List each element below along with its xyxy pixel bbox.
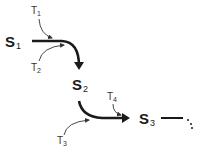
state-subscript: 1 (16, 41, 21, 51)
transition-t4: T4 (107, 92, 117, 103)
t3-input-arrow (64, 120, 89, 135)
continuation-dot (187, 119, 189, 121)
state-subscript: 2 (83, 84, 88, 94)
t2-input-arrow (39, 45, 64, 61)
continuation-dot (191, 127, 193, 129)
state-subscript: 3 (150, 118, 155, 128)
transition-subscript: 1 (37, 10, 41, 17)
state-s2: S2 (72, 77, 88, 94)
transition-subscript: 3 (63, 140, 67, 147)
state-s3: S3 (139, 111, 155, 128)
t1-input-arrow (39, 19, 52, 38)
transition-t3: T3 (57, 136, 67, 147)
state-letter: S (5, 33, 15, 50)
state-letter: S (72, 76, 82, 93)
continuation-dot (190, 123, 192, 125)
transition-subscript: 2 (37, 67, 41, 74)
transition-subscript: 4 (113, 96, 117, 103)
t4-input-arrow (113, 104, 121, 115)
state-s1: S1 (5, 34, 21, 51)
state-transition-diagram (0, 0, 203, 155)
transition-t1: T1 (31, 6, 41, 17)
transition-t2: T2 (31, 63, 41, 74)
edge-s2-s3 (79, 101, 126, 118)
state-letter: S (139, 110, 149, 127)
